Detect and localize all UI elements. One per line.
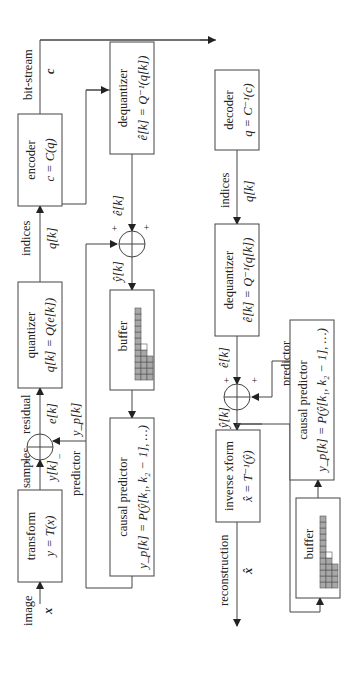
image-symbol: x: [41, 608, 55, 615]
decoder-indices-label: indices: [218, 172, 232, 208]
samples-symbol: y[k]: [45, 460, 59, 483]
quantizer-block: quantizer q[k] = Q(e[k]): [18, 282, 62, 388]
decoder-dequantizer-title: dequantizer: [222, 250, 236, 309]
transform-equation: y = T(x): [43, 515, 57, 558]
quantizer-title: quantizer: [24, 311, 38, 358]
encoder-dequantizer-equation: ê[k] = Q⁻¹(q[k]): [136, 56, 150, 141]
encoder-causal-predictor-block: causal predictor y_p[k] = P(ŷ[k₁, k₂ − 1…: [110, 418, 154, 576]
encoder-equation: c = C(q): [43, 138, 57, 181]
encoder-block: encoder c = C(q): [18, 114, 62, 206]
encoder-dequant-out-symbol: ê[k]: [111, 195, 125, 216]
svg-text:+: +: [249, 377, 260, 383]
encoder-predictor-symbol: y_p[k]: [69, 403, 83, 438]
bitstream-label: bit-stream: [21, 49, 35, 100]
svg-text:+: +: [21, 458, 32, 464]
decoder-dequantizer-equation: ê[k] = Q⁻¹(q[k]): [241, 238, 255, 323]
transform-block: transform y = T(x): [18, 490, 62, 582]
inverse-transform-title: inverse xform: [222, 441, 236, 511]
decoder-buffer-title: buffer: [302, 528, 316, 559]
decoder-sum-junction: + +: [221, 377, 260, 410]
inverse-transform-block: inverse xform x̂ = T⁻¹(ŷ): [216, 430, 260, 522]
decoder-recon-symbol: ŷ[k]: [217, 407, 231, 430]
residual-sum-junction: + −: [21, 434, 65, 464]
indices-symbol: q[k]: [45, 227, 59, 249]
residual-label: residual: [19, 394, 33, 434]
encoder-recon-sum-junction: + +: [109, 224, 152, 257]
svg-text:−: −: [54, 453, 65, 459]
reconstruction-label: reconstruction: [217, 534, 231, 606]
decoder-block: decoder q = C⁻¹(c): [215, 70, 259, 150]
residual-symbol: e[k]: [45, 403, 59, 424]
encoder-causal-predictor-equation: y_p[k] = P(ŷ[k₁, k₂ − 1], …): [136, 425, 150, 571]
decoder-indices-symbol: q[k]: [242, 180, 256, 202]
encoder-predictor-label: predictor: [69, 450, 83, 496]
encoder-title: encoder: [24, 139, 38, 179]
decoder-buffer-block: buffer: [296, 498, 340, 598]
svg-text:+: +: [141, 224, 152, 230]
decoder-causal-predictor-block: causal predictor y_p[k] = P(ŷ[k₁, k₂ − 1…: [290, 320, 334, 480]
indices-label: indices: [19, 220, 33, 256]
decoder-causal-predictor-title: causal predictor: [296, 359, 310, 439]
inverse-transform-equation: x̂ = T⁻¹(ŷ): [241, 450, 255, 502]
decoder-dequantizer-block: dequantizer ê[k] = Q⁻¹(q[k]): [215, 224, 259, 336]
image-label: image: [21, 595, 35, 626]
decoder-title: decoder: [222, 89, 236, 129]
quantizer-equation: q[k] = Q(e[k]): [43, 298, 57, 372]
svg-text:+: +: [109, 225, 120, 231]
encoder-buffer-block: buffer: [110, 290, 154, 390]
decoder-equation: q = C⁻¹(c): [241, 83, 255, 137]
encoder-dequantizer-title: dequantizer: [116, 68, 130, 127]
decoder-dequant-out-symbol: ê[k]: [217, 347, 231, 368]
bitstream-symbol: c: [43, 68, 57, 74]
compression-block-diagram: image x transform y = T(x) samples y[k] …: [0, 0, 351, 686]
encoder-recon-symbol: ŷ[k]: [111, 261, 125, 284]
svg-text:+: +: [221, 377, 232, 383]
encoder-buffer-title: buffer: [116, 320, 130, 351]
decoder-causal-predictor-equation: y_p[k] = P(ŷ[k₁, k₂ − 1], …): [315, 328, 329, 474]
encoder-causal-predictor-title: causal predictor: [116, 456, 130, 536]
reconstruction-symbol: x̂: [241, 568, 255, 575]
transform-title: transform: [24, 511, 38, 560]
